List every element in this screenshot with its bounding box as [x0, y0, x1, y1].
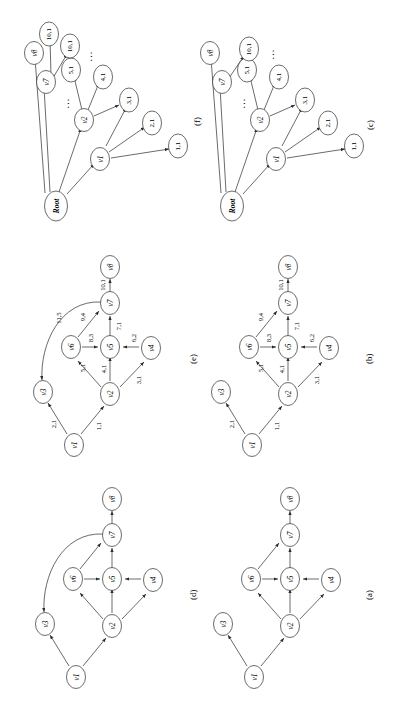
level1-ellipsis: ...: [236, 97, 247, 108]
node-v5-label: v5: [108, 575, 117, 582]
node-v7: v7: [103, 524, 122, 547]
node-v5: v5: [279, 336, 298, 359]
node-v2: v2: [281, 615, 300, 638]
node-v3: v3: [36, 613, 55, 636]
node-v5-label: v5: [284, 343, 293, 350]
node-v2-label: v2: [108, 622, 117, 629]
weight-v6-v7: 9,4: [79, 312, 86, 321]
node-v1-label: v1: [250, 674, 259, 681]
node-v7-label: v7: [108, 531, 117, 538]
edge-v1-v3: [226, 403, 245, 434]
leaf-4-1-label: 4,1: [99, 72, 107, 81]
panel-b-graph: 2,1 1,1 5,1 4,1 3,1 8,3 6,2 7,1 9,4 10,1…: [212, 274, 364, 460]
leaf-10-1-b-label: 10,1: [45, 27, 53, 40]
node-v2-label: v2: [284, 390, 293, 397]
weight-v6-v7: 9,4: [257, 312, 264, 321]
node-v3: v3: [214, 613, 233, 636]
node-v2: v2: [103, 615, 122, 638]
edge-v6-v7: [258, 543, 279, 569]
node-v8-label: v8: [286, 495, 295, 502]
node-v7-label: v7: [106, 299, 115, 306]
weight-v7-v8: 10,1: [277, 279, 284, 291]
node-v7-label: v7: [42, 78, 51, 85]
edge-v1-v3: [50, 635, 69, 666]
weight-v2-v6: 5,1: [79, 364, 86, 372]
edge-root-v1: [243, 164, 270, 194]
leaf-1-1: 1,1: [169, 134, 188, 158]
edge-v1-leaf1: [111, 149, 169, 158]
node-v1: v1: [67, 666, 86, 689]
weight-v6-v5: 8,3: [265, 333, 272, 342]
node-v7: v7: [279, 292, 298, 315]
node-v2-label: v2: [286, 622, 295, 629]
edge-v1-v3: [48, 403, 67, 434]
weight-v1-v3: 2,1: [228, 420, 235, 428]
node-v4-label: v4: [327, 576, 336, 583]
node-v8-label: v8: [106, 263, 115, 270]
node-v3: v3: [212, 381, 231, 404]
edge-v1-leaf1: [287, 149, 345, 158]
node-v1: v1: [243, 434, 262, 457]
node-root-label: Root: [52, 198, 61, 215]
weight-v2-v4: 3,1: [135, 376, 142, 384]
edge-v2-leaf3: [250, 77, 258, 110]
leaf-4-1: 4,1: [94, 65, 113, 89]
node-root: Root: [221, 191, 244, 221]
panel-d-caption: (d): [188, 590, 198, 601]
node-v3-label: v3: [217, 388, 226, 395]
node-v7: v7: [101, 292, 120, 315]
node-v8: v8: [279, 256, 298, 279]
node-root: Root: [45, 191, 68, 221]
edge-v1-v2: [261, 638, 284, 666]
node-v6: v6: [62, 336, 81, 359]
node-v5: v5: [281, 568, 300, 591]
weight-v2-v4: 3,1: [313, 376, 320, 384]
leaf-1-1: 1,1: [345, 134, 364, 158]
panel-c-caption: (c): [365, 120, 375, 130]
node-v3-label: v3: [41, 620, 50, 627]
figure-canvas: v1 v3 v2 v6 v5 v4: [0, 0, 413, 708]
node-v8-label: v8: [284, 263, 293, 270]
leaf-3-1: 3,1: [120, 88, 139, 112]
edge-v1-v2: [83, 638, 106, 666]
leaf-10-1-a-label: 10,1: [66, 39, 74, 52]
panel-d: v1 v3 v2 v6 v5 v4: [36, 516, 188, 692]
node-v6-label: v6: [69, 575, 78, 582]
leaf-1-1-label: 1,1: [174, 141, 182, 150]
weight-v2-v5: 4,1: [278, 365, 285, 373]
leaf-10-1-label: 10,1: [245, 42, 253, 55]
panel-c-graph: Root v1 v2 v7 v8 ... 1,1: [202, 34, 367, 226]
node-v3: v3: [34, 381, 53, 404]
node-v4: v4: [142, 337, 161, 360]
node-v7: v7: [281, 524, 300, 547]
weight-v5-v7: 7,1: [115, 322, 122, 330]
node-v2: v2: [251, 109, 270, 132]
leaf-5-1-label: 5,1: [243, 65, 251, 74]
node-v7: v7: [37, 71, 56, 94]
edge-root-v1: [67, 164, 94, 194]
node-v1-label: v1: [272, 156, 281, 163]
node-v8-label: v8: [108, 495, 117, 502]
leaf-5-1: 5,1: [238, 58, 257, 82]
node-v4: v4: [144, 569, 163, 592]
leaf-4-1: 4,1: [270, 65, 289, 89]
weight-v7-v3: 11,5: [55, 312, 62, 324]
node-v7: v7: [213, 71, 232, 94]
node-v6-label: v6: [247, 575, 256, 582]
edge-v2-leaf3: [74, 77, 82, 110]
node-v1: v1: [267, 148, 286, 171]
node-v3-label: v3: [219, 620, 228, 627]
edge-v2-v4: [300, 594, 324, 619]
node-v2-label: v2: [106, 390, 115, 397]
leaf-10-1-a: 10,1: [61, 34, 80, 58]
leaf-2-1-label: 2,1: [324, 118, 332, 127]
panel-d-graph: v1 v3 v2 v6 v5 v4: [36, 516, 188, 692]
leaf-1-1-label: 1,1: [350, 141, 358, 150]
weight-v2-v6: 5,1: [257, 364, 264, 372]
node-v4-label: v4: [149, 576, 158, 583]
node-v8: v8: [103, 488, 122, 511]
node-v4-label: v4: [325, 344, 334, 351]
node-v7-label: v7: [218, 78, 227, 85]
panel-c: Root v1 v2 v7 v8 ... 1,1: [202, 34, 367, 226]
node-v4-label: v4: [147, 344, 156, 351]
